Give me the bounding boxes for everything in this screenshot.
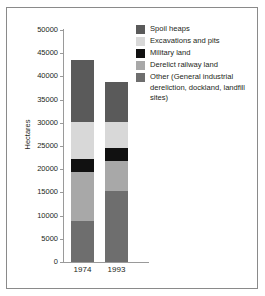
y-tick-mark	[60, 53, 63, 54]
legend-item-label: Spoil heaps	[150, 24, 190, 35]
legend-item: Derelict railway land	[136, 60, 254, 71]
y-tick-label: 30000	[37, 119, 58, 127]
y-tick-mark	[60, 216, 63, 217]
bar-segment	[105, 122, 128, 148]
bar-segment	[105, 82, 128, 122]
y-tick-mark	[60, 239, 63, 240]
y-tick-label: 25000	[37, 142, 58, 150]
y-tick-mark	[60, 146, 63, 147]
legend-item-label: Derelict railway land	[150, 60, 218, 71]
x-axis-line	[63, 262, 149, 263]
bar-segment	[71, 60, 94, 122]
legend-item: Spoil heaps	[136, 24, 254, 35]
bar-segment	[105, 161, 128, 192]
y-tick-label: 0	[54, 258, 58, 266]
legend-item: Military land	[136, 48, 254, 59]
legend-swatch	[136, 49, 145, 58]
bar-segment	[71, 172, 94, 221]
y-tick-mark	[60, 123, 63, 124]
stacked-bar	[105, 82, 128, 262]
legend-item-label: Military land	[150, 48, 191, 59]
bar-segment	[71, 221, 94, 262]
plot-area	[63, 30, 131, 262]
x-tick-label: 1993	[97, 265, 137, 274]
y-tick-mark	[60, 192, 63, 193]
y-tick-mark	[60, 100, 63, 101]
bar-segment	[105, 148, 128, 161]
legend-item-label: Other (General industrial dereliction, d…	[150, 72, 254, 104]
y-tick-label: 15000	[37, 188, 58, 196]
y-tick-mark	[60, 169, 63, 170]
y-tick-label: 40000	[37, 72, 58, 80]
bar-segment	[71, 159, 94, 172]
y-tick-label: 45000	[37, 49, 58, 57]
y-tick-mark	[60, 76, 63, 77]
chart-legend: Spoil heapsExcavations and pitsMilitary …	[136, 24, 254, 105]
bar-segment	[71, 122, 94, 159]
stacked-bar	[71, 60, 94, 262]
y-tick-label: 50000	[37, 26, 58, 34]
y-tick-label: 20000	[37, 165, 58, 173]
chart-figure: Hectares 0500010000150002000025000300003…	[0, 0, 265, 296]
bar-segment	[105, 191, 128, 262]
legend-item-label: Excavations and pits	[150, 36, 220, 47]
y-tick-label: 10000	[37, 212, 58, 220]
y-tick-mark	[60, 262, 63, 263]
y-tick-mark	[60, 30, 63, 31]
legend-item: Other (General industrial dereliction, d…	[136, 72, 254, 104]
legend-swatch	[136, 25, 145, 34]
y-tick-label-group: 0500010000150002000025000300003500040000…	[0, 0, 58, 296]
legend-swatch	[136, 37, 145, 46]
y-tick-label: 35000	[37, 96, 58, 104]
legend-swatch	[136, 61, 145, 70]
legend-item: Excavations and pits	[136, 36, 254, 47]
legend-swatch	[136, 73, 145, 82]
y-tick-label: 5000	[41, 235, 58, 243]
